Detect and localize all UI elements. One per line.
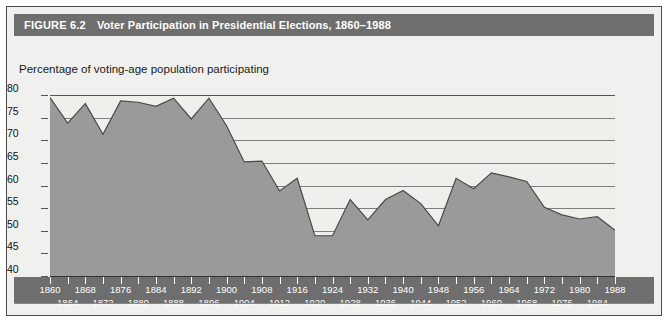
x-tick-1876 <box>121 277 122 284</box>
y-tick-label-50: 50 <box>7 218 41 230</box>
x-tick-1948 <box>438 277 439 284</box>
plot-area <box>50 95 615 276</box>
bottom-rule <box>14 303 654 304</box>
x-tick-1908 <box>262 277 263 284</box>
y-tick-label-55: 55 <box>7 195 41 207</box>
y-tick-label-40: 40 <box>7 263 41 275</box>
figure-title: Voter Participation in Presidential Elec… <box>97 19 391 31</box>
x-tick-1976 <box>562 277 563 284</box>
y-tick-60 <box>41 186 48 187</box>
y-tick-50 <box>41 231 48 232</box>
y-tick-label-80: 80 <box>7 82 41 94</box>
x-tick-1952 <box>456 277 457 284</box>
y-tick-45 <box>41 253 48 254</box>
y-tick-label-65: 65 <box>7 150 41 162</box>
y-tick-65 <box>41 163 48 164</box>
y-tick-label-60: 60 <box>7 173 41 185</box>
x-tick-label-1908: 1908 <box>242 284 282 295</box>
x-tick-1864 <box>68 277 69 284</box>
x-tick-label-1988: 1988 <box>595 284 635 295</box>
x-tick-1940 <box>403 277 404 284</box>
x-tick-1884 <box>156 277 157 284</box>
x-tick-label-1980: 1980 <box>560 284 600 295</box>
x-tick-label-1948: 1948 <box>418 284 458 295</box>
x-tick-1900 <box>227 277 228 284</box>
x-tick-1984 <box>597 277 598 284</box>
x-tick-1924 <box>333 277 334 284</box>
voter-participation-area-series <box>50 95 615 276</box>
x-tick-1928 <box>350 277 351 284</box>
y-tick-label-75: 75 <box>7 105 41 117</box>
x-tick-label-1964: 1964 <box>489 284 529 295</box>
x-tick-1892 <box>191 277 192 284</box>
x-tick-1888 <box>174 277 175 284</box>
figure-title-bar: FIGURE 6.2 Voter Participation in Presid… <box>14 14 654 36</box>
x-tick-label-1876: 1876 <box>101 284 141 295</box>
x-tick-1916 <box>297 277 298 284</box>
x-tick-label-1884: 1884 <box>136 284 176 295</box>
y-tick-80 <box>41 95 48 96</box>
x-tick-1872 <box>103 277 104 284</box>
x-tick-1932 <box>368 277 369 284</box>
y-tick-70 <box>41 140 48 141</box>
x-tick-1912 <box>280 277 281 284</box>
x-tick-1944 <box>421 277 422 284</box>
chart-subtitle: Percentage of voting-age population part… <box>19 63 269 75</box>
x-tick-1860 <box>50 277 51 284</box>
x-tick-label-1916: 1916 <box>277 284 317 295</box>
x-tick-1960 <box>491 277 492 284</box>
x-tick-1904 <box>244 277 245 284</box>
x-tick-1988 <box>615 277 616 284</box>
x-tick-label-1956: 1956 <box>454 284 494 295</box>
figure-panel: FIGURE 6.2 Voter Participation in Presid… <box>6 6 662 316</box>
x-tick-1880 <box>138 277 139 284</box>
y-tick-label-70: 70 <box>7 127 41 139</box>
plot-canvas <box>50 95 615 276</box>
x-tick-1964 <box>509 277 510 284</box>
figure-number: FIGURE 6.2 <box>24 19 86 31</box>
x-tick-label-1924: 1924 <box>313 284 353 295</box>
x-tick-1868 <box>85 277 86 284</box>
x-tick-label-1940: 1940 <box>383 284 423 295</box>
y-tick-40 <box>41 276 48 277</box>
x-tick-1972 <box>544 277 545 284</box>
y-tick-label-45: 45 <box>7 240 41 252</box>
y-tick-75 <box>41 118 48 119</box>
x-tick-1936 <box>385 277 386 284</box>
x-tick-label-1932: 1932 <box>348 284 388 295</box>
x-tick-label-1860: 1860 <box>30 284 70 295</box>
x-tick-1920 <box>315 277 316 284</box>
x-tick-label-1972: 1972 <box>524 284 564 295</box>
y-tick-55 <box>41 208 48 209</box>
x-tick-1896 <box>209 277 210 284</box>
x-tick-label-1900: 1900 <box>207 284 247 295</box>
x-tick-label-1868: 1868 <box>65 284 105 295</box>
x-tick-1968 <box>527 277 528 284</box>
x-tick-1956 <box>474 277 475 284</box>
x-tick-label-1892: 1892 <box>171 284 211 295</box>
x-tick-1980 <box>580 277 581 284</box>
